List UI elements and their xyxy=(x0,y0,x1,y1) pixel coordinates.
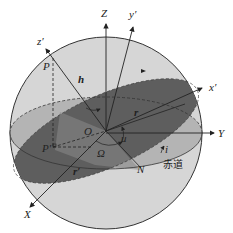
label-i: i xyxy=(165,143,168,155)
label-X: X xyxy=(23,208,32,220)
label-z-prime: z′ xyxy=(36,35,44,47)
label-P-prime: P′ xyxy=(41,142,52,154)
label-Y: Y xyxy=(218,127,226,139)
diagram-canvas: Z y′ z′ x′ Y X P P′ h O r r′ u Ω i N 赤道 xyxy=(0,0,233,233)
label-O: O xyxy=(84,125,92,137)
label-x-prime: x′ xyxy=(208,81,217,93)
label-P: P xyxy=(42,60,50,72)
label-Omega: Ω xyxy=(97,147,105,159)
orbital-sphere-diagram: Z y′ z′ x′ Y X P P′ h O r r′ u Ω i N 赤道 xyxy=(0,0,233,233)
label-r-prime: r′ xyxy=(73,165,80,177)
label-h: h xyxy=(78,73,84,85)
label-u: u xyxy=(121,132,127,144)
label-Z: Z xyxy=(101,7,108,19)
label-y-prime: y′ xyxy=(128,8,137,20)
label-equator: 赤道 xyxy=(163,158,183,170)
label-r: r xyxy=(134,106,139,118)
label-N: N xyxy=(136,163,145,175)
